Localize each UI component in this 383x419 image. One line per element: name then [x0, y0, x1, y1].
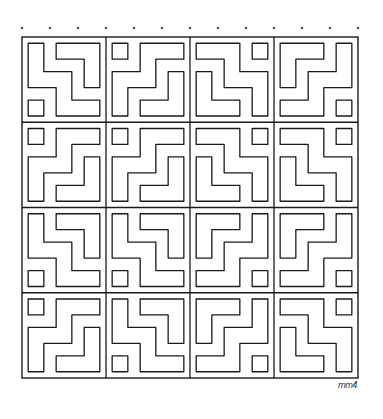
- stepped-shape: [28, 299, 100, 372]
- stepped-shape: [196, 214, 240, 258]
- grid-dot: [161, 27, 163, 29]
- grid-dot: [217, 27, 219, 29]
- stepped-shape: [280, 327, 324, 371]
- corner-square: [112, 129, 128, 145]
- stepped-shape: [196, 299, 268, 372]
- stepped-shape: [28, 129, 100, 202]
- stepped-shape: [280, 157, 324, 201]
- maze-pattern-drawing: [0, 0, 383, 419]
- stepped-shape: [56, 157, 100, 201]
- stepped-shape: [280, 214, 324, 258]
- corner-square: [252, 271, 268, 287]
- stepped-shape: [196, 157, 240, 201]
- stepped-shape: [56, 43, 100, 87]
- stepped-shape: [28, 214, 100, 287]
- grid-dot: [133, 27, 135, 29]
- stepped-shape: [196, 299, 240, 343]
- stepped-shape: [280, 299, 352, 372]
- stepped-shape: [112, 214, 184, 287]
- stepped-shape: [56, 327, 100, 371]
- stepped-shape: [140, 299, 184, 343]
- stepped-shape: [140, 72, 184, 116]
- grid-dot: [329, 27, 331, 29]
- corner-square: [112, 356, 128, 372]
- corner-square: [336, 100, 352, 116]
- stepped-shape: [196, 214, 268, 287]
- grid-dot: [189, 27, 191, 29]
- grid-dot: [301, 27, 303, 29]
- stepped-shape: [112, 299, 184, 372]
- corner-square: [336, 299, 352, 315]
- grid-dot: [245, 27, 247, 29]
- corner-square: [112, 43, 128, 59]
- corner-square: [252, 356, 268, 372]
- stepped-shape: [280, 129, 352, 202]
- grid-dot: [49, 27, 51, 29]
- corner-square: [252, 129, 268, 145]
- stepped-shape: [112, 43, 184, 116]
- corner-square: [28, 299, 44, 315]
- corner-square: [336, 271, 352, 287]
- stepped-shape: [280, 43, 352, 116]
- stepped-shape: [280, 43, 324, 87]
- grid-dot: [105, 27, 107, 29]
- stepped-shape: [196, 43, 268, 116]
- corner-square: [252, 43, 268, 59]
- artist-signature: mm4: [338, 381, 357, 390]
- grid-dot: [21, 27, 23, 29]
- stepped-shape: [140, 214, 184, 258]
- stepped-shape: [140, 157, 184, 201]
- stepped-shape: [196, 72, 240, 116]
- grid-dot: [77, 27, 79, 29]
- stepped-shape: [28, 43, 100, 116]
- corner-square: [28, 100, 44, 116]
- corner-square: [336, 129, 352, 145]
- corner-square: [112, 271, 128, 287]
- stepped-shape: [112, 129, 184, 202]
- grid-dot: [273, 27, 275, 29]
- stepped-shape: [280, 214, 352, 287]
- corner-square: [28, 271, 44, 287]
- corner-square: [28, 129, 44, 145]
- grid-dot: [357, 27, 359, 29]
- stepped-shape: [196, 129, 268, 202]
- stepped-shape: [56, 214, 100, 258]
